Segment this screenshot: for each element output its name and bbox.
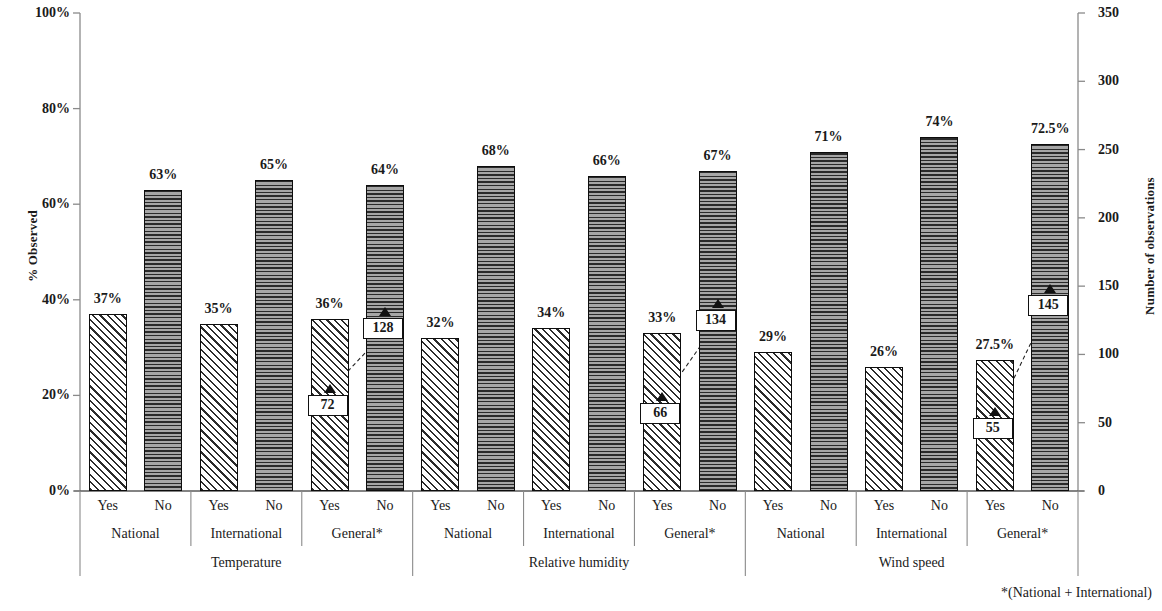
bar-wind-speed-international-yes[interactable] [865,367,903,491]
bar-relative-humidity-national-yes[interactable] [421,338,459,491]
bar-relative-humidity-international-yes[interactable] [532,328,570,491]
observation-marker-triangle-icon [324,384,336,393]
y-axis-tick-label: 60% [42,197,70,211]
bar-value-label: 35% [174,302,264,316]
observation-marker-triangle-icon [712,299,724,308]
y2-axis-tick-label: 0 [1098,484,1105,498]
bar-temperature-international-yes[interactable] [200,324,238,491]
bar-value-label: 72.5% [1005,122,1095,136]
observation-count-label: 55 [973,418,1013,439]
bar-value-label: 67% [673,149,763,163]
y-axis-title-right: Number of observations [1142,136,1158,356]
y-axis-tick-label: 80% [42,102,70,116]
observation-count-label: 128 [363,318,403,339]
y2-axis-tick-label: 150 [1098,279,1119,293]
bar-wind-speed-international-no[interactable] [920,137,958,491]
x-axis-group-label: Relative humidity [479,556,679,570]
bar-temperature-international-no[interactable] [255,180,293,491]
bar-wind-speed-general--no[interactable] [1031,144,1069,491]
bar-value-label: 26% [839,345,929,359]
bar-value-label: 33% [617,311,707,325]
y2-axis-tick-label: 250 [1098,143,1119,157]
y2-axis-tick-label: 100 [1098,347,1119,361]
bar-value-label: 29% [728,330,818,344]
observation-marker-triangle-icon [989,407,1001,416]
y2-axis-tick-label: 200 [1098,211,1119,225]
bar-value-label: 68% [451,144,541,158]
bar-value-label: 74% [894,115,984,129]
observation-marker-triangle-icon [1044,284,1056,293]
observation-count-label: 66 [640,403,680,424]
bar-temperature-national-no[interactable] [144,190,182,491]
bar-relative-humidity-national-no[interactable] [477,166,515,491]
y-axis-tick-label: 0% [49,484,70,498]
y2-axis-tick-label: 50 [1098,416,1112,430]
bar-value-label: 37% [63,292,153,306]
y-axis-title-left: % Observed [25,166,41,326]
chart-container: % Observed Number of observations 0%20%4… [0,0,1162,611]
y2-axis-tick-label: 350 [1098,6,1119,20]
observation-marker-triangle-icon [656,392,668,401]
observation-count-label: 72 [308,395,348,416]
bar-value-label: 65% [229,158,319,172]
bar-value-label: 27.5% [950,338,1040,352]
bar-value-label: 32% [395,316,485,330]
bar-temperature-national-yes[interactable] [89,314,127,491]
footnote: *(National + International) [832,585,1152,601]
observation-marker-triangle-icon [379,307,391,316]
bar-value-label: 64% [340,163,430,177]
x-axis-answer-label: No [1010,499,1090,513]
bar-wind-speed-national-yes[interactable] [754,352,792,491]
y2-axis-tick-label: 300 [1098,74,1119,88]
y-axis-tick-label: 20% [42,388,70,402]
bar-value-label: 66% [562,154,652,168]
x-axis-group-label: Temperature [146,556,346,570]
bar-value-label: 36% [285,297,375,311]
bar-value-label: 34% [506,306,596,320]
bar-wind-speed-national-no[interactable] [810,152,848,491]
bar-value-label: 71% [784,130,874,144]
x-axis-group-label: Wind speed [812,556,1012,570]
observation-count-label: 134 [696,310,736,331]
y-axis-tick-label: 100% [35,6,70,20]
observation-count-label: 145 [1028,295,1068,316]
bar-relative-humidity-international-no[interactable] [588,176,626,491]
bar-value-label: 63% [118,168,208,182]
x-axis-subgroup-label: General* [953,527,1093,541]
